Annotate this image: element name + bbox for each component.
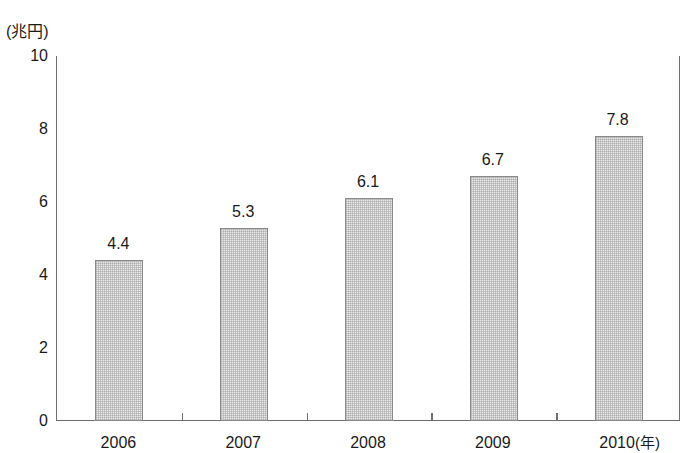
- bar-value-label: 6.7: [453, 152, 533, 168]
- x-axis-tick: [556, 413, 558, 420]
- x-axis-category-text: 2007: [225, 434, 261, 451]
- x-axis-category-label: 2010(年): [580, 435, 680, 451]
- x-axis-unit-label: (年): [635, 434, 660, 451]
- x-axis-category-text: 2009: [475, 434, 511, 451]
- y-axis-tick-label: 6: [14, 194, 48, 210]
- bar-value-label: 7.8: [578, 112, 658, 128]
- bar: [95, 260, 143, 421]
- x-axis-tick: [431, 413, 433, 420]
- bar: [470, 176, 518, 421]
- y-axis-tick-label: 0: [14, 413, 48, 429]
- y-axis-tick-label: 10: [14, 48, 48, 64]
- bar: [595, 136, 643, 421]
- x-axis-category-text: 2010: [599, 434, 635, 451]
- y-axis-tick-label: 2: [14, 340, 48, 356]
- x-axis-category-text: 2006: [101, 434, 137, 451]
- bar-value-label: 5.3: [203, 204, 283, 220]
- x-axis-tick: [307, 413, 309, 420]
- y-axis-tick-label: 4: [14, 267, 48, 283]
- x-axis-category-label: 2008: [318, 435, 418, 451]
- bar: [345, 198, 393, 421]
- x-axis-category-text: 2008: [350, 434, 386, 451]
- y-axis-unit-label: (兆円): [6, 18, 49, 42]
- bar-value-label: 4.4: [78, 236, 158, 252]
- bar: [220, 228, 268, 421]
- bar-chart: (兆円) 0246810 4.45.36.16.77.8 20062007200…: [0, 0, 690, 453]
- x-axis-category-label: 2007: [193, 435, 293, 451]
- bar-value-label: 6.1: [328, 174, 408, 190]
- x-axis-category-label: 2006: [68, 435, 168, 451]
- y-axis-tick-label: 8: [14, 121, 48, 137]
- x-axis-category-label: 2009: [443, 435, 543, 451]
- x-axis-tick: [182, 413, 184, 420]
